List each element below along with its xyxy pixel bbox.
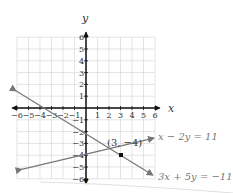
x-tick-label: −5 <box>23 111 35 120</box>
x-tick-label: 1 <box>95 111 100 120</box>
intersection-label: (3, −4) <box>107 137 142 148</box>
equation-label-1: x − 2y = 11 <box>158 131 218 142</box>
y-axis-label: y <box>81 12 89 25</box>
x-tick-label: 3 <box>118 111 123 120</box>
y-tick-label: 4 <box>79 57 84 66</box>
coordinate-plane: −6−5−4−3−2−1123456654321−1−2−3−4−5−6 y x… <box>0 0 233 193</box>
x-tick-label: −4 <box>34 111 46 120</box>
page-curl-line <box>40 182 233 193</box>
equation-lines <box>16 91 154 175</box>
y-tick-label: 6 <box>79 33 84 42</box>
x-tick-label: 5 <box>141 111 146 120</box>
y-tick-label: −6 <box>72 175 84 184</box>
equation-label-2: 3x + 5y = −11 <box>158 171 233 182</box>
x-axis-label: x <box>168 102 175 115</box>
y-tick-label: 5 <box>79 45 84 54</box>
x-tick-label: 2 <box>106 111 111 120</box>
x-tick-label: 6 <box>152 111 157 120</box>
x-tick-label: −6 <box>11 111 23 120</box>
intersection-point <box>119 153 123 157</box>
axes <box>12 32 159 183</box>
y-tick-label: 3 <box>79 69 84 78</box>
y-tick-label: −1 <box>72 116 84 125</box>
y-tick-label: 1 <box>79 92 84 101</box>
y-tick-label: −5 <box>72 163 84 172</box>
x-tick-label: −2 <box>57 111 69 120</box>
x-tick-label: 4 <box>129 111 134 120</box>
y-tick-label: 2 <box>79 80 84 89</box>
y-tick-label: −3 <box>72 139 84 148</box>
